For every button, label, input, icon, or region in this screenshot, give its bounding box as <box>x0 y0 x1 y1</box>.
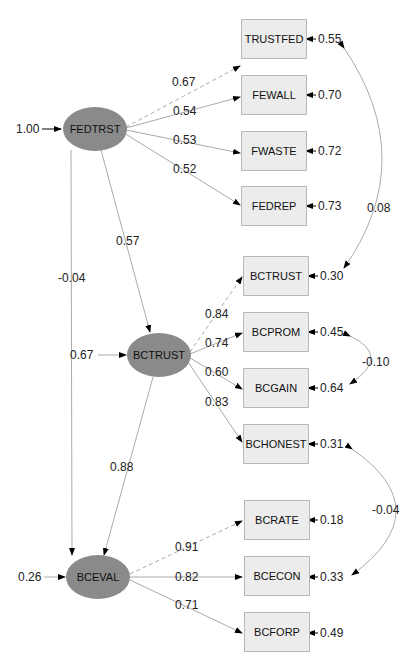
indicator-label: BCHONEST <box>245 438 306 450</box>
loading-bcecon: 0.82 <box>175 570 198 584</box>
latent-bceval: BCEVAL <box>66 555 130 599</box>
indicator-fwaste: FWASTE <box>241 131 307 171</box>
bceval-residual: 0.26 <box>18 570 41 584</box>
cov-bchonest-bcecon: -0.04 <box>372 503 399 517</box>
indicator-label: BCGAIN <box>255 382 297 394</box>
error-bcforp: 0.49 <box>320 626 343 640</box>
latent-label: FEDTRST <box>70 123 121 135</box>
indicator-label: BCRATE <box>255 514 299 526</box>
path-fedtrst-bceval: -0.04 <box>58 271 85 285</box>
loading-bctrust: 0.84 <box>205 307 228 321</box>
indicator-label: BCECON <box>253 570 300 582</box>
indicator-label: FWASTE <box>251 145 296 157</box>
indicator-label: FEWALL <box>252 89 296 101</box>
indicator-label: BCPROM <box>252 326 300 338</box>
indicator-bcgain: BCGAIN <box>243 368 309 408</box>
error-bctrust: 0.30 <box>320 269 343 283</box>
indicator-bcforp: BCFORP <box>244 612 310 652</box>
cov-bcprom-bcgain: -0.10 <box>362 355 389 369</box>
error-fwaste: 0.72 <box>318 144 341 158</box>
latent-fedtrst: FEDTRST <box>63 107 127 151</box>
latent-label: BCTRUST <box>133 349 185 361</box>
indicator-bcecon: BCECON <box>244 556 310 596</box>
loading-fewall: 0.54 <box>173 104 196 118</box>
latent-bctrust: BCTRUST <box>127 333 191 377</box>
error-bcecon: 0.33 <box>320 570 343 584</box>
loading-bcgain: 0.60 <box>205 365 228 379</box>
latent-label: BCEVAL <box>77 571 120 583</box>
path-fedtrst-bctrust: 0.57 <box>116 234 139 248</box>
loading-bchonest: 0.83 <box>205 395 228 409</box>
indicator-bcrate: BCRATE <box>244 500 310 540</box>
fedtrst-variance: 1.00 <box>16 122 39 136</box>
indicator-fedrep: FEDREP <box>241 186 307 226</box>
error-fedrep: 0.73 <box>318 199 341 213</box>
error-bcgain: 0.64 <box>320 381 343 395</box>
loading-bcprom: 0.74 <box>205 336 228 350</box>
error-bcrate: 0.18 <box>320 513 343 527</box>
loading-bcforp: 0.71 <box>175 598 198 612</box>
error-trustfed: 0.55 <box>318 32 341 46</box>
path-bctrust-bceval: 0.88 <box>110 460 133 474</box>
loading-fedrep: 0.52 <box>173 162 196 176</box>
indicator-label: TRUSTFED <box>245 33 304 45</box>
bctrust-residual: 0.67 <box>70 348 93 362</box>
indicator-label: BCFORP <box>254 626 300 638</box>
cov-trustfed-bctrust: 0.08 <box>367 201 390 215</box>
indicator-fewall: FEWALL <box>241 75 307 115</box>
loading-trustfed: 0.67 <box>172 75 195 89</box>
path-lines <box>0 0 413 666</box>
indicator-bctrust: BCTRUST <box>243 256 309 296</box>
indicator-bcprom: BCPROM <box>243 312 309 352</box>
error-fewall: 0.70 <box>318 88 341 102</box>
loading-fwaste: 0.53 <box>173 133 196 147</box>
indicator-label: FEDREP <box>252 200 297 212</box>
error-bchonest: 0.31 <box>320 437 343 451</box>
indicator-trustfed: TRUSTFED <box>241 19 307 59</box>
error-bcprom: 0.45 <box>320 325 343 339</box>
loading-bcrate: 0.91 <box>175 540 198 554</box>
indicator-bchonest: BCHONEST <box>243 424 309 464</box>
indicator-label: BCTRUST <box>250 270 302 282</box>
